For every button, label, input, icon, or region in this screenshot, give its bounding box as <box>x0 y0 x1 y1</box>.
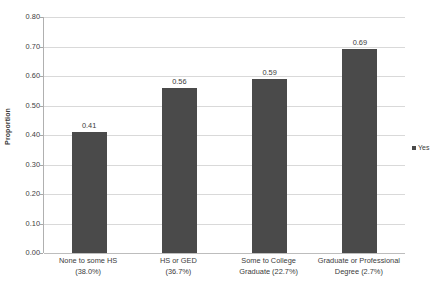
x-axis-tick-label: None to some HS(38.0%) <box>43 256 133 277</box>
bar-group[interactable]: 0.69 <box>342 17 377 253</box>
gridline <box>44 253 405 254</box>
y-axis-tick-label: 0.40 <box>14 131 40 139</box>
y-axis-tick-label: 0.80 <box>14 13 40 21</box>
x-axis-tick-label-line: HS or GED <box>133 256 223 267</box>
bar-group[interactable]: 0.56 <box>162 17 197 253</box>
y-axis-tick-label: 0.30 <box>14 161 40 169</box>
plot-area: 0.410.560.590.69 <box>43 17 405 253</box>
bar[interactable] <box>72 132 107 253</box>
bar[interactable] <box>342 49 377 253</box>
x-axis-tick-label-line: Some to College <box>224 256 314 267</box>
bar[interactable] <box>162 88 197 253</box>
legend-swatch-yes <box>412 146 416 150</box>
x-axis-tick-label: Some to CollegeGraduate (22.7%) <box>224 256 314 277</box>
legend: Yes <box>412 144 429 152</box>
bar-value-label: 0.41 <box>60 121 119 130</box>
bars-layer: 0.410.560.590.69 <box>44 17 405 253</box>
x-axis-tick-label: Graduate or ProfessionalDegree (2.7%) <box>314 256 404 277</box>
y-axis-tick-label: 0.10 <box>14 220 40 228</box>
x-axis-tick-label-line: Graduate (22.7%) <box>224 267 314 278</box>
x-axis-tick-label-line: (36.7%) <box>133 267 223 278</box>
y-axis-tick-label: 0.60 <box>14 72 40 80</box>
y-axis-tick-label: 0.50 <box>14 102 40 110</box>
y-axis-title-text: Proportion <box>4 108 11 145</box>
x-axis-tick-label-line: Degree (2.7%) <box>314 267 404 278</box>
bar-value-label: 0.56 <box>150 77 209 86</box>
bar-group[interactable]: 0.59 <box>252 17 287 253</box>
x-axis-tick-labels: None to some HS(38.0%)HS or GED(36.7%)So… <box>43 256 404 294</box>
legend-label-yes: Yes <box>418 144 429 152</box>
x-axis-tick-label-line: (38.0%) <box>43 267 133 278</box>
y-axis-tick-mark <box>40 253 43 254</box>
bar[interactable] <box>252 79 287 253</box>
x-axis-tick-label-line: Graduate or Professional <box>314 256 404 267</box>
bar-chart: Proportion 0.800.700.600.500.400.300.200… <box>0 0 445 296</box>
y-axis-tick-labels: 0.800.700.600.500.400.300.200.100.00 <box>14 0 40 253</box>
bar-group[interactable]: 0.41 <box>72 17 107 253</box>
y-axis-title: Proportion <box>0 0 14 253</box>
bar-value-label: 0.59 <box>240 68 299 77</box>
bar-value-label: 0.69 <box>330 38 389 47</box>
y-axis-tick-label: 0.20 <box>14 190 40 198</box>
x-axis-tick-label: HS or GED(36.7%) <box>133 256 223 277</box>
y-axis-tick-label: 0.70 <box>14 43 40 51</box>
y-axis-tick-label: 0.00 <box>14 249 40 257</box>
x-axis-tick-label-line: None to some HS <box>43 256 133 267</box>
